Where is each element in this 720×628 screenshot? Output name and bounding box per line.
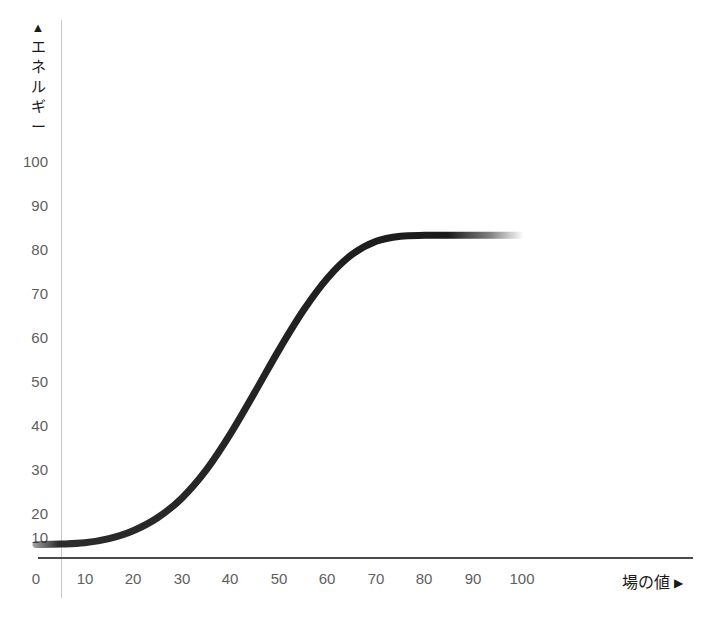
chart-page: ▲ エ ネ ル ギ ー 100 90 80 70 60 50 40 30 20 … xyxy=(0,0,720,628)
energy-curve xyxy=(36,235,522,544)
plot-area xyxy=(0,0,720,628)
